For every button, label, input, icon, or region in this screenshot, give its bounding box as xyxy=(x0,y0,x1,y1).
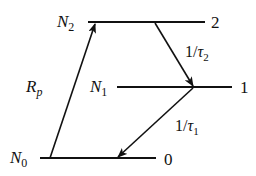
level-0: N0 0 xyxy=(9,148,173,170)
level-1-index-label: 1 xyxy=(240,78,249,97)
pump-rate-label: Rp xyxy=(25,77,42,99)
decay-2-1-rate-label: 1/τ2 xyxy=(185,43,209,63)
decay-1-0-transition: 1/τ1 xyxy=(118,88,199,157)
decay-2-1-transition: 1/τ2 xyxy=(155,23,209,86)
level-1: N1 1 xyxy=(89,77,249,99)
decay-1-0-rate-label: 1/τ1 xyxy=(175,117,199,137)
level-0-index-label: 0 xyxy=(164,150,173,169)
energy-level-diagram: N2 2 N1 1 N0 0 Rp 1/τ2 1/τ1 xyxy=(0,0,256,176)
pump-transition: Rp xyxy=(25,24,95,158)
level-2-population-label: N2 xyxy=(56,12,74,34)
level-2-index-label: 2 xyxy=(211,13,220,32)
level-2: N2 2 xyxy=(56,12,220,34)
level-1-population-label: N1 xyxy=(89,77,107,99)
level-0-population-label: N0 xyxy=(9,148,27,170)
pump-arrow-icon xyxy=(50,24,95,158)
